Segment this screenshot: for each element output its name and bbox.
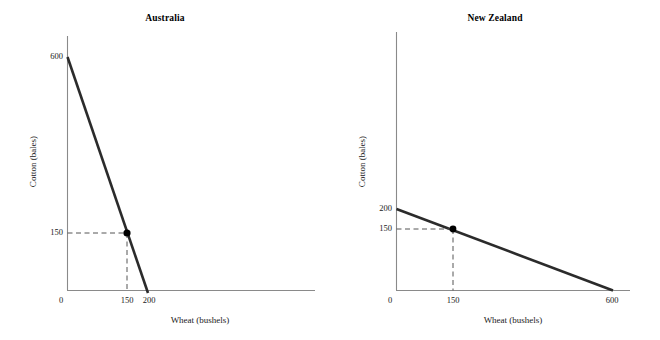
y-axis-title-australia: Cotton (bales) bbox=[29, 117, 38, 207]
chart-panel-newzealand: New Zealand 200 150 0 150 600 Wheat (bus… bbox=[330, 0, 660, 340]
x-tick-label-600-newzealand: 600 bbox=[597, 296, 627, 305]
x-tick-label-150-newzealand: 150 bbox=[438, 296, 468, 305]
production-point-marker-newzealand bbox=[450, 226, 457, 233]
y-axis-title-newzealand: Cotton (bales) bbox=[358, 117, 367, 207]
ppf-line-newzealand bbox=[397, 209, 614, 291]
x-tick-label-0-newzealand: 0 bbox=[380, 296, 400, 305]
figure-two-country-ppf: Australia 600 150 0 150 200 Wheat (bushe… bbox=[0, 0, 660, 340]
x-tick-label-200-australia: 200 bbox=[134, 296, 164, 305]
x-tick-label-0-australia: 0 bbox=[51, 296, 71, 305]
x-axis-title-newzealand: Wheat (bushels) bbox=[453, 316, 573, 325]
y-tick-label-200-newzealand: 200 bbox=[349, 204, 392, 213]
x-axis-title-australia: Wheat (bushels) bbox=[140, 316, 260, 325]
production-point-marker-australia bbox=[123, 229, 130, 236]
y-tick-label-600-australia: 600 bbox=[20, 52, 63, 61]
ppf-line-australia bbox=[68, 57, 149, 293]
plot-area-newzealand bbox=[330, 0, 660, 340]
y-tick-label-150-australia: 150 bbox=[20, 228, 63, 237]
y-tick-label-150-newzealand: 150 bbox=[349, 224, 392, 233]
chart-panel-australia: Australia 600 150 0 150 200 Wheat (bushe… bbox=[0, 0, 330, 340]
